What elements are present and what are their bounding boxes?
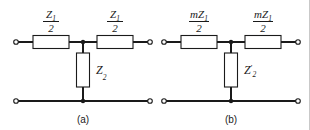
svg-text:Z1: Z1 — [46, 8, 56, 23]
series-impedance-left-a — [33, 36, 69, 49]
terminal-top-left-a — [14, 40, 19, 45]
label-series-left-b: mZ1 2 — [189, 8, 209, 34]
label-shunt-b: Z′2 — [244, 63, 256, 79]
terminal-bottom-left-a — [14, 99, 19, 104]
terminal-bottom-left-b — [162, 99, 167, 104]
terminal-top-left-b — [162, 40, 167, 45]
circuit-a: Z1 2 Z1 2 Z2 (a) — [14, 8, 153, 125]
circuit-b: mZ1 2 mZ1 2 Z′2 (b) — [162, 8, 301, 125]
series-impedance-left-b — [181, 36, 217, 49]
terminal-bottom-right-a — [148, 99, 153, 104]
svg-text:2: 2 — [112, 22, 118, 34]
svg-text:2: 2 — [196, 22, 202, 34]
label-series-left-a: Z1 2 — [43, 8, 59, 34]
label-shunt-a: Z2 — [96, 63, 107, 82]
figure-container: Z1 2 Z1 2 Z2 (a) — [0, 0, 310, 130]
junction-dot-bottom-a — [81, 99, 85, 103]
svg-text:mZ1: mZ1 — [190, 8, 208, 23]
caption-a: (a) — [77, 114, 89, 125]
label-series-right-b: mZ1 2 — [253, 8, 273, 34]
shunt-impedance-a — [77, 53, 90, 87]
junction-dot-top-a — [81, 40, 85, 44]
caption-b: (b) — [225, 114, 237, 125]
terminal-top-right-a — [148, 40, 153, 45]
junction-dot-bottom-b — [229, 99, 233, 103]
svg-text:Z′2: Z′2 — [244, 63, 256, 79]
label-series-right-a: Z1 2 — [107, 8, 123, 34]
svg-text:2: 2 — [48, 22, 54, 34]
svg-text:mZ1: mZ1 — [254, 8, 272, 23]
series-impedance-right-a — [97, 36, 133, 49]
svg-text:2: 2 — [260, 22, 266, 34]
series-impedance-right-b — [245, 36, 281, 49]
svg-text:Z1: Z1 — [110, 8, 120, 23]
circuit-diagram: Z1 2 Z1 2 Z2 (a) — [0, 0, 310, 130]
terminal-bottom-right-b — [296, 99, 301, 104]
terminal-top-right-b — [296, 40, 301, 45]
junction-dot-top-b — [229, 40, 233, 44]
shunt-impedance-b — [225, 53, 238, 87]
svg-text:Z2: Z2 — [96, 63, 107, 82]
